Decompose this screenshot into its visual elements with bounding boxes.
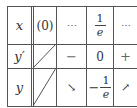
undefined-slash-y: [33, 68, 56, 106]
yprime-value-zero: 0: [87, 45, 113, 68]
x-dots-2: ⋯: [114, 7, 137, 44]
fraction-denominator: e: [97, 26, 104, 38]
fraction: 1 e: [100, 75, 111, 100]
minus-sign: −: [89, 80, 100, 95]
y-value-neg-one-over-e: − 1 e: [87, 69, 113, 106]
yprime-sign-minus: −: [57, 45, 86, 68]
negative-fraction: − 1 e: [89, 75, 112, 100]
fraction-numerator: 1: [100, 75, 111, 88]
x-value-zero: (0): [34, 7, 56, 44]
fraction-denominator: e: [103, 88, 110, 100]
fraction-numerator: 1: [95, 13, 106, 26]
row-header-yprime: y′: [8, 45, 31, 68]
undefined-slash-yprime: [33, 44, 56, 68]
row-header-x: x: [8, 7, 31, 44]
row-header-y: y: [8, 69, 31, 106]
x-dots-1: ⋯: [57, 7, 86, 44]
variation-table: x (0) ⋯ 1 e ⋯ y′ − 0 + y ↘ − 1 e ↗: [0, 0, 137, 108]
increasing-arrow-icon: ↗: [114, 69, 137, 106]
yprime-sign-plus: +: [114, 45, 137, 68]
table-border-bottom: [7, 106, 137, 107]
double-line-a: [31, 6, 32, 107]
decreasing-arrow-icon: ↘: [57, 69, 86, 106]
fraction: 1 e: [95, 13, 106, 38]
x-value-one-over-e: 1 e: [87, 7, 113, 44]
